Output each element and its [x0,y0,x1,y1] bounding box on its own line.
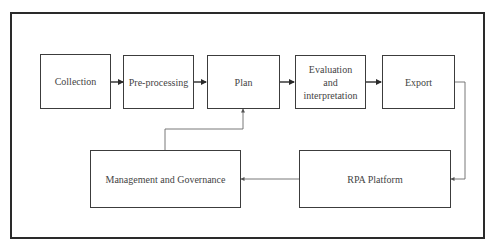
node-management-governance: Management and Governance [90,150,241,208]
node-label: Evaluation and interpretation [302,63,359,102]
node-pre-processing: Pre-processing [123,55,194,109]
node-evaluation: Evaluation and interpretation [295,55,366,109]
node-label: RPA Platform [347,173,402,186]
node-label: Management and Governance [106,173,226,186]
node-label: Plan [235,76,253,89]
node-label: Collection [55,75,97,88]
node-plan: Plan [207,55,280,109]
node-label: Pre-processing [129,76,188,89]
node-rpa-platform: RPA Platform [299,150,451,208]
node-export: Export [382,55,455,109]
node-collection: Collection [40,54,111,109]
node-label: Export [405,76,432,89]
